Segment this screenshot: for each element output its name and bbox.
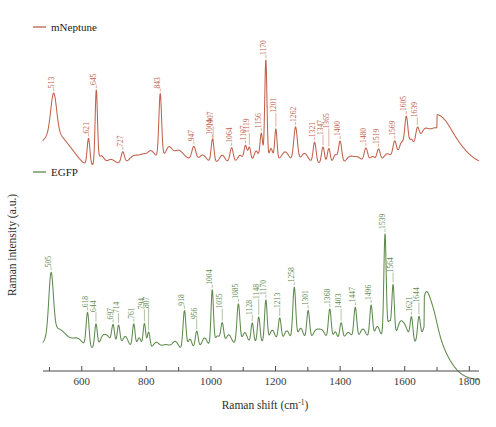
legend-label-egfp: EGFP (51, 166, 78, 178)
peak-label: 1447 (348, 287, 357, 302)
peak-label: 727 (116, 135, 125, 147)
peak-label: 1368 (323, 289, 332, 304)
raman-spectra-figure: mNeptuneEGFP 513621645727843947100410071… (0, 0, 496, 427)
peak-label: 1564 (386, 257, 395, 272)
peak-label-group: 5136216457278439471004100710641107111911… (44, 40, 421, 330)
peak-label: 1644 (412, 287, 421, 302)
peak-label: 843 (153, 77, 162, 89)
x-tick-label: 1200 (265, 375, 288, 387)
peak-label: 956 (190, 307, 199, 319)
peak-label: 714 (112, 301, 121, 313)
peak-label: 1007 (206, 111, 215, 126)
peak-label: 1213 (273, 293, 282, 308)
peak-label: 947 (187, 130, 196, 142)
x-axis: 60080010001200140016001800 (43, 366, 481, 387)
peak-label: 644 (89, 300, 98, 312)
x-tick-label: 1600 (394, 375, 417, 387)
peak-label: 1201 (269, 97, 278, 112)
y-axis-title: Raman intensity (a.u.) (6, 194, 19, 296)
peak-label: 1365 (322, 113, 331, 128)
peak-label: 1156 (254, 113, 263, 128)
peak-label: 1639 (410, 102, 419, 117)
peak-label: 645 (89, 73, 98, 85)
x-tick-label: 1000 (200, 375, 223, 387)
peak-label: 1085 (231, 283, 240, 298)
peak-label: 918 (177, 294, 186, 306)
peak-label: 761 (127, 307, 136, 319)
peak-label: 1400 (333, 121, 342, 136)
peak-label: 1605 (399, 96, 408, 111)
peak-label: 1480 (359, 128, 368, 143)
peak-label: 1119 (242, 118, 251, 133)
peak-label: 1262 (289, 107, 298, 122)
peak-label: 1004 (205, 269, 214, 284)
legend-label-mneptune: mNeptune (51, 21, 97, 33)
peak-label: 1064 (225, 127, 234, 142)
peak-label: 513 (47, 77, 56, 89)
peak-label: 505 (44, 256, 53, 268)
peak-label: 1035 (215, 293, 224, 308)
peak-label: 1258 (287, 267, 296, 282)
x-tick-label: 800 (138, 375, 155, 387)
x-axis-title: Raman shift (cm-1) (222, 398, 309, 412)
spectra-plot: mNeptuneEGFP 513621645727843947100410071… (0, 0, 496, 427)
peak-label: 1539 (378, 213, 387, 228)
x-axis-title-main: Raman shift (cm (222, 399, 299, 412)
peak-label: 1170 (259, 40, 268, 55)
x-tick-label: 1800 (458, 375, 481, 387)
peak-label: 1569 (388, 120, 397, 135)
peak-label: 1170 (259, 280, 268, 295)
legend: mNeptuneEGFP (33, 21, 97, 178)
peak-label: 1403 (334, 293, 343, 308)
x-tick-label: 1400 (329, 375, 352, 387)
peak-label: 1301 (301, 290, 310, 305)
peak-label: 1519 (372, 128, 381, 143)
peak-label: 1496 (364, 285, 373, 300)
peak-label: 1128 (245, 300, 254, 315)
peak-label: 621 (82, 122, 91, 134)
x-tick-label: 600 (74, 375, 91, 387)
peak-label: 807 (142, 296, 151, 308)
